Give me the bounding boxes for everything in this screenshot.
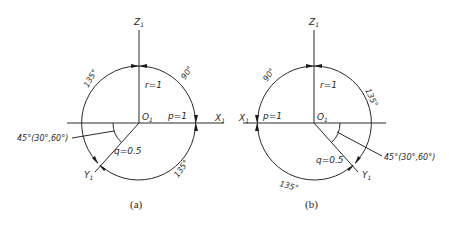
- axis-angle-label-b: 45°(30°,60°): [384, 153, 435, 162]
- origin-label-b: O1: [317, 112, 328, 123]
- p-label-b: p=1: [262, 111, 282, 121]
- arrowhead-icon: [255, 123, 259, 131]
- caption-b: (b): [305, 198, 318, 211]
- y-axis-label-a: Y1: [84, 170, 93, 181]
- angle-label-top-left-b: 90°: [261, 66, 277, 83]
- x-axis-label-b: X1: [238, 113, 249, 124]
- y-axis-label-b: Y1: [362, 170, 371, 181]
- angle-label-top-left-a: 135°: [82, 68, 99, 89]
- angle-label-bottom-a: 135°: [172, 158, 190, 179]
- q-label-a: q=0.5: [114, 146, 142, 156]
- arrowhead-icon: [306, 64, 314, 68]
- arrowhead-icon: [194, 115, 198, 123]
- leader-line-b: [337, 132, 382, 156]
- arrowhead-icon: [255, 115, 259, 123]
- diagram-canvas: Z1 X1 Y1 O1 r=1 p=1 q=0.5 135° 90° 135° …: [0, 0, 449, 226]
- r-label-a: r=1: [145, 80, 162, 90]
- r-label-b: r=1: [320, 80, 337, 90]
- axis-angle-label-a: 45°(30°,60°): [17, 134, 68, 143]
- arrowhead-icon: [194, 123, 198, 131]
- arrowhead-icon: [99, 165, 106, 171]
- arrowhead-icon: [131, 64, 139, 68]
- origin-label-a: O1: [142, 112, 153, 123]
- z-axis-label-b: Z1: [308, 17, 319, 28]
- leader-line-a: [72, 131, 114, 138]
- arrowhead-icon: [314, 64, 322, 68]
- arrowhead-icon: [347, 165, 354, 171]
- x-axis-label-a: X1: [214, 113, 225, 124]
- angle-label-bottom-b: 135°: [278, 179, 299, 193]
- angle-label-top-right-a: 90°: [179, 64, 195, 81]
- caption-a: (a): [130, 198, 143, 211]
- arrowhead-icon: [139, 64, 147, 68]
- diagram-a: Z1 X1 Y1 O1 r=1 p=1 q=0.5 135° 90° 135° …: [17, 17, 225, 211]
- p-label-a: p=1: [167, 111, 187, 121]
- z-axis-label-a: Z1: [133, 17, 144, 28]
- q-label-b: q=0.5: [316, 155, 344, 165]
- angle-arc-a: [113, 123, 121, 142]
- diagram-b: Z1 X1 Y1 O1 r=1 p=1 q=0.5 90° 135° 135° …: [238, 17, 435, 211]
